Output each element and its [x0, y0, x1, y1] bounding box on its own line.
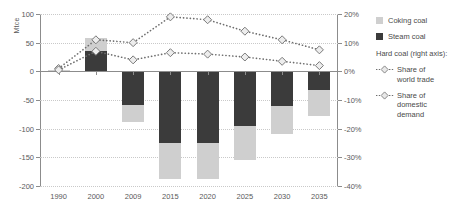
- legend-group-title: Hard coal (right axis):: [376, 49, 451, 58]
- y-axis-tick-label: -100: [0, 124, 34, 133]
- y2-axis-tick-label: -40%: [344, 182, 378, 191]
- gridline: [40, 186, 338, 187]
- x-axis-tick-label: 1990: [39, 192, 79, 201]
- chart-legend: Coking coal Steam coal Hard coal (right …: [376, 16, 451, 126]
- y2-axis-tick-label: 0%: [344, 67, 378, 76]
- y2-axis-tick: [338, 43, 342, 44]
- line-series-share-of-domestic-demand: [55, 47, 324, 74]
- y2-axis-tick-label: 10%: [344, 38, 378, 47]
- y2-axis-tick-label: -20%: [344, 124, 378, 133]
- data-point-marker-diamond: [204, 50, 212, 58]
- y-axis-tick-label: -50: [0, 96, 34, 105]
- data-point-marker-diamond: [315, 62, 323, 70]
- x-axis-tick-label: 2030: [262, 192, 302, 201]
- data-point-marker-diamond: [166, 49, 174, 57]
- legend-item-coking-coal: Coking coal: [376, 16, 451, 25]
- y2-axis-tick: [338, 100, 342, 101]
- y2-axis-tick: [338, 71, 342, 72]
- legend-label-line1: Share of: [397, 91, 425, 100]
- steam-coal-swatch-icon: [376, 33, 383, 40]
- y2-axis-tick-label: -30%: [344, 153, 378, 162]
- y-axis-tick-label: 50: [0, 38, 34, 47]
- data-point-marker-diamond: [204, 16, 212, 24]
- y2-axis-tick-label: 20%: [344, 10, 378, 19]
- x-axis-tick-label: 2020: [188, 192, 228, 201]
- data-point-marker-diamond: [92, 36, 100, 44]
- dotted-diamond-line-icon: [376, 65, 394, 74]
- data-point-marker-diamond: [92, 47, 100, 55]
- legend-label-share-domestic-demand: Share of domestic demand: [397, 91, 451, 119]
- x-axis-tick-label: 2000: [76, 192, 116, 201]
- legend-label-coking-coal: Coking coal: [388, 16, 451, 25]
- legend-label-share-world-trade: Share of world trade: [397, 65, 451, 84]
- y2-axis-tick: [338, 14, 342, 15]
- legend-item-share-world-trade: Share of world trade: [376, 65, 451, 84]
- x-axis-tick-label: 2015: [150, 192, 190, 201]
- y-axis-tick: [36, 186, 40, 187]
- x-axis-tick-label: 2025: [225, 192, 265, 201]
- y-axis-tick-label: 0: [0, 67, 34, 76]
- y2-axis-tick: [338, 157, 342, 158]
- y-axis-tick-label: -200: [0, 182, 34, 191]
- coking-coal-swatch-icon: [376, 17, 383, 24]
- y2-axis-tick-label: -10%: [344, 96, 378, 105]
- data-point-marker-diamond: [315, 46, 323, 54]
- y2-axis-tick: [338, 129, 342, 130]
- line-series-overlay: [40, 14, 338, 186]
- legend-item-share-domestic-demand: Share of domestic demand: [376, 91, 451, 119]
- y-axis-tick-label: 100: [0, 10, 34, 19]
- legend-label-line2: domestic demand: [397, 100, 427, 118]
- dotted-diamond-line-icon: [376, 91, 394, 100]
- y2-axis-tick: [338, 186, 342, 187]
- chart-container: Mtce 100500-50-100-150-20020%10%0%-10%-2…: [0, 0, 451, 212]
- legend-label-steam-coal: Steam coal: [388, 32, 451, 41]
- y-axis-tick-label: -150: [0, 153, 34, 162]
- x-axis-tick-label: 2009: [113, 192, 153, 201]
- data-point-marker-diamond: [241, 27, 249, 35]
- data-point-marker-diamond: [129, 56, 137, 64]
- data-point-marker-diamond: [241, 53, 249, 61]
- legend-label-line1: Share of: [397, 65, 425, 74]
- data-point-marker-diamond: [278, 36, 286, 44]
- legend-item-steam-coal: Steam coal: [376, 32, 451, 41]
- plot-area: 100500-50-100-150-20020%10%0%-10%-20%-30…: [40, 14, 338, 186]
- data-point-marker-diamond: [278, 57, 286, 65]
- legend-label-line2: world trade: [397, 75, 434, 84]
- x-axis-tick-label: 2035: [299, 192, 339, 201]
